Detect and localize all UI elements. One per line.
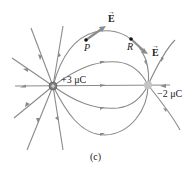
e-vector-at-r [131,39,148,54]
negative-charge [144,81,152,89]
positive-charge-label: +3 μC [61,75,86,85]
e-vector-at-p [86,26,106,40]
point-r-label: R [127,42,133,52]
figure-caption: (c) [90,152,101,162]
e-vector-arrow-r: → [152,43,159,50]
field-line-lower-arc [53,85,148,108]
negative-charge-label: −2 μC [157,89,182,99]
field-line-bottom-arc [53,85,148,135]
e-vector-arrow-p: → [108,9,115,16]
point-p-label: P [84,43,90,53]
